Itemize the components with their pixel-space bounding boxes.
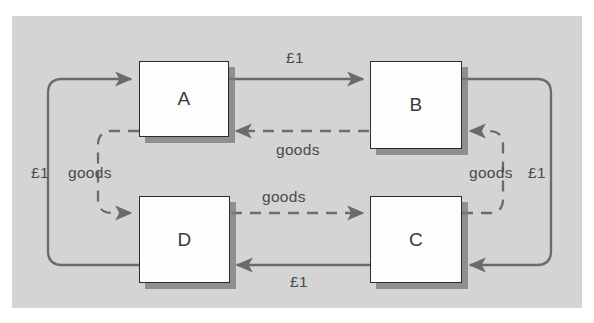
edge-label-right-goods: goods — [469, 164, 513, 182]
node-b[interactable]: B — [370, 61, 462, 149]
edge-label-upper-goods: goods — [276, 141, 320, 159]
node-d-label: D — [177, 229, 191, 251]
edge-label-top-money: £1 — [286, 49, 304, 67]
node-b-label: B — [409, 94, 422, 116]
node-a-label: A — [177, 88, 190, 110]
diagram-canvas: A B D C £1 goods £1 goods goods goods £1… — [0, 0, 594, 323]
edge-label-middle-goods: goods — [262, 188, 306, 206]
node-c[interactable]: C — [370, 196, 462, 283]
edge-label-left-money: £1 — [31, 164, 49, 182]
edge-label-left-goods: goods — [68, 164, 112, 182]
node-d[interactable]: D — [139, 196, 230, 283]
node-c-label: C — [409, 229, 423, 251]
edge-label-right-money: £1 — [528, 164, 546, 182]
node-a[interactable]: A — [139, 61, 229, 137]
edge-label-bottom-money: £1 — [290, 273, 308, 291]
